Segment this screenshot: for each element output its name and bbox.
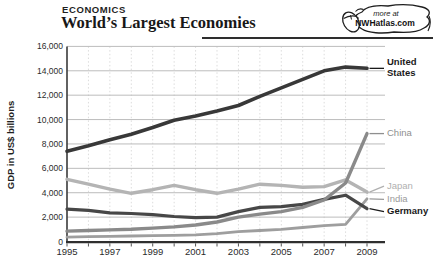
- y-tick-label: 0: [58, 237, 63, 247]
- y-tick-label: 14,000: [37, 66, 63, 76]
- x-tick-label: 2009: [356, 246, 377, 257]
- x-tick-label: 2001: [185, 246, 206, 257]
- x-tick-label: 2003: [228, 246, 249, 257]
- series-label-india: India: [387, 194, 433, 205]
- series-label-united-states: United States: [387, 57, 433, 78]
- y-tick-label: 16,000: [37, 41, 63, 51]
- x-tick-label: 1999: [142, 246, 163, 257]
- x-tick-label: 1997: [99, 246, 120, 257]
- series-label-china: China: [387, 128, 433, 139]
- label-leader-germany: [370, 209, 385, 212]
- y-axis-title: GDP in US$ billions: [5, 101, 16, 190]
- x-tick-label: 1995: [56, 246, 77, 257]
- gdp-line-chart: 02,0004,0006,0008,00010,00012,00014,0001…: [0, 0, 433, 265]
- y-tick-label: 12,000: [37, 90, 63, 100]
- y-tick-label: 2,000: [42, 212, 64, 222]
- y-tick-label: 4,000: [42, 188, 64, 198]
- x-tick-label: 2007: [314, 246, 335, 257]
- series-label-japan: Japan: [387, 181, 433, 192]
- y-tick-label: 6,000: [42, 163, 64, 173]
- label-leader-india: [370, 199, 385, 200]
- x-tick-label: 2005: [271, 246, 292, 257]
- y-tick-label: 8,000: [42, 139, 64, 149]
- series-label-germany: Germany: [387, 206, 433, 217]
- y-tick-label: 10,000: [37, 115, 63, 125]
- label-leader-japan: [370, 186, 385, 192]
